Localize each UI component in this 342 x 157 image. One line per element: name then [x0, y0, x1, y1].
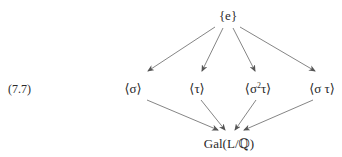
arrow-sigma2tau-to-gal [235, 100, 256, 130]
node-sigma-tau: ⟨σ τ⟩ [309, 82, 335, 95]
node-trivial-subgroup: {e} [219, 9, 237, 22]
arrow-tau-to-gal [201, 100, 225, 130]
node-sigma2-tau: ⟨σ2τ⟩ [245, 82, 271, 95]
arrows-layer [0, 0, 342, 157]
arrow-sigma-to-gal [147, 100, 218, 130]
node-sigma: ⟨σ⟩ [124, 82, 141, 95]
equation-number: (7.7) [8, 83, 31, 95]
arrow-sigmatau-to-gal [244, 100, 313, 130]
arrow-e-to-sigma2tau [233, 28, 255, 71]
arrow-e-to-tau [202, 28, 223, 71]
node-sigma2-tau-base: ⟨σ [245, 81, 257, 96]
node-galois-group: Gal(L/ℚ) [204, 137, 254, 150]
node-tau: ⟨τ⟩ [189, 82, 204, 95]
subgroup-lattice-diagram: (7.7) {e} ⟨σ⟩ ⟨τ⟩ ⟨σ2τ⟩ ⟨σ τ⟩ Gal(L/ℚ) [0, 0, 342, 157]
node-sigma2-tau-tail: τ⟩ [261, 81, 271, 96]
